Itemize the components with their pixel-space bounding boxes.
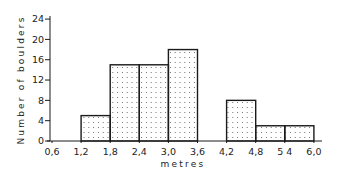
y-tick-label: 8 (38, 95, 44, 106)
y-axis-ticks: 04812162024 (32, 13, 50, 146)
histogram-bar (227, 100, 256, 141)
y-axis-title: Number of boulders (16, 15, 26, 144)
x-tick-label: 6,0 (306, 146, 321, 157)
y-tick-label: 0 (38, 135, 44, 146)
histogram-bar (168, 50, 197, 141)
y-tick-label: 4 (38, 115, 44, 126)
x-tick-label: 5 4 (277, 146, 292, 157)
histogram-bar (110, 65, 139, 141)
y-tick-label: 20 (32, 34, 44, 45)
y-tick-label: 12 (32, 74, 44, 85)
histogram-chart: 04812162024 0,61,21,82,43,03,64,24,85 46… (0, 0, 342, 174)
x-axis-ticks: 0,61,21,82,43,03,64,24,85 46,0 (44, 141, 321, 157)
x-tick-label: 2,4 (132, 146, 147, 157)
x-tick-label: 4,2 (219, 146, 234, 157)
histogram-bar (139, 65, 168, 141)
x-tick-label: 1,8 (103, 146, 118, 157)
x-axis-title: metres (161, 159, 206, 169)
x-tick-label: 3,0 (161, 146, 176, 157)
x-tick-label: 3,6 (190, 146, 205, 157)
x-tick-label: 0,6 (44, 146, 59, 157)
histogram-bar (285, 126, 314, 141)
histogram-bars (81, 50, 314, 141)
x-tick-label: 4,8 (248, 146, 263, 157)
y-tick-label: 16 (32, 54, 44, 65)
histogram-bar (256, 126, 285, 141)
y-tick-label: 24 (32, 13, 44, 24)
x-tick-label: 1,2 (74, 146, 89, 157)
histogram-bar (81, 116, 110, 141)
